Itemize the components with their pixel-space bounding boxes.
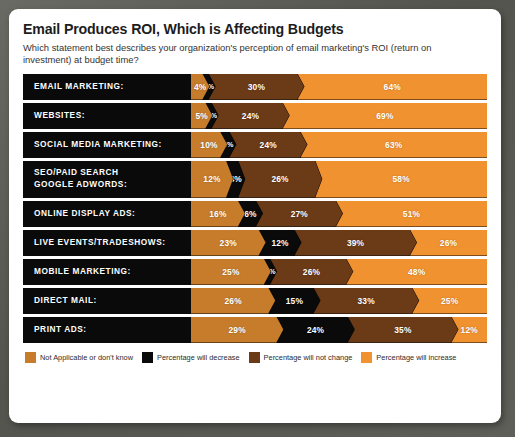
chart-row: LIVE EVENTS/TRADESHOWS:23%12%39%26%	[23, 230, 487, 256]
chart-segment: 35%	[348, 317, 458, 343]
legend-item[interactable]: Percentage will not change	[249, 352, 353, 363]
chart-segment: 33%	[314, 288, 419, 314]
chart-row-label: PRINT ADS:	[34, 317, 87, 343]
chart-segment-value: 25%	[441, 296, 458, 306]
chart-segment: 48%	[346, 259, 487, 285]
chart-row-label: EMAIL MARKETING:	[34, 74, 124, 100]
chart-segment-value: 10%	[200, 140, 217, 150]
chart-segment: 30%	[209, 74, 304, 100]
chart-segment-value: 25%	[222, 267, 239, 277]
chart-segment-value: 39%	[347, 238, 364, 248]
chart-segment: 69%	[283, 103, 487, 129]
chart-segment: 10%	[191, 132, 227, 158]
chart-segment-value: 24%	[242, 111, 259, 121]
chart-segment-value: 29%	[228, 325, 245, 335]
legend-label: Percentage will increase	[376, 353, 456, 362]
chart-segment: 58%	[315, 161, 487, 198]
chart-segment-value: 58%	[392, 174, 409, 184]
chart-segment-value: 33%	[357, 296, 374, 306]
chart-row-segments: 12%4%26%58%	[191, 161, 487, 198]
chart-segment: 51%	[336, 201, 487, 227]
page-subtitle: Which statement best describes your orga…	[23, 42, 453, 67]
chart-segment-value: 5%	[195, 111, 208, 121]
chart-segment: 12%	[191, 161, 233, 198]
chart-row-segments: 5%2%24%69%	[191, 103, 487, 129]
chart-segment-value: 26%	[271, 174, 288, 184]
chart-segment-value: 4%	[194, 82, 207, 92]
chart-segment-value: 48%	[408, 267, 425, 277]
legend-swatch-icon	[249, 352, 260, 363]
chart-segment: 25%	[191, 259, 271, 285]
legend-label: Percentage will not change	[264, 353, 353, 362]
chart-row-label: SEO/PAID SEARCH GOOGLE ADWORDS:	[34, 161, 127, 198]
legend-swatch-icon	[361, 352, 372, 363]
chart-row-segments: 26%15%33%25%	[191, 288, 487, 314]
chart-segment-value: 6%	[244, 209, 257, 219]
chart-row-segments: 23%12%39%26%	[191, 230, 487, 256]
chart-segment: 39%	[295, 230, 417, 256]
chart-row-label: WEBSITES:	[34, 103, 85, 129]
chart-segment-value: 35%	[394, 325, 411, 335]
chart-segment-value: 26%	[440, 238, 457, 248]
legend-item[interactable]: Percentage will decrease	[142, 352, 240, 363]
stacked-bar-chart: EMAIL MARKETING:4%2%30%64%WEBSITES:5%2%2…	[23, 74, 487, 343]
chart-segment: 26%	[410, 230, 487, 256]
chart-row-segments: 16%6%27%51%	[191, 201, 487, 227]
chart-row-segments: 25%2%26%48%	[191, 259, 487, 285]
legend-swatch-icon	[25, 352, 36, 363]
chart-row-label: SOCIAL MEDIA MARKETING:	[34, 132, 162, 158]
chart-segment: 24%	[212, 103, 290, 129]
chart-row-segments: 10%3%24%63%	[191, 132, 487, 158]
chart-card: Email Produces ROI, Which is Affecting B…	[9, 9, 501, 423]
chart-segment-value: 64%	[384, 82, 401, 92]
chart-row-label: ONLINE DISPLAY ADS:	[34, 201, 135, 227]
chart-segment-value: 26%	[303, 267, 320, 277]
legend-swatch-icon	[142, 352, 153, 363]
chart-segment-value: 12%	[461, 325, 478, 335]
legend-label: Not Applicable or don't know	[40, 353, 133, 362]
chart-segment: 26%	[270, 259, 353, 285]
page-title: Email Produces ROI, Which is Affecting B…	[23, 21, 487, 39]
chart-row: WEBSITES:5%2%24%69%	[23, 103, 487, 129]
legend-label: Percentage will decrease	[157, 353, 240, 362]
chart-segment: 64%	[298, 74, 487, 100]
chart-row-label: DIRECT MAIL:	[34, 288, 97, 314]
chart-row-segments: 29%24%35%12%	[191, 317, 487, 343]
legend-item[interactable]: Percentage will increase	[361, 352, 456, 363]
chart-row-segments: 4%2%30%64%	[191, 74, 487, 100]
chart-segment: 24%	[229, 132, 307, 158]
chart-segment-value: 26%	[224, 296, 241, 306]
chart-segment-value: 27%	[291, 209, 308, 219]
chart-segment-value: 12%	[203, 174, 220, 184]
chart-legend: Not Applicable or don't knowPercentage w…	[23, 352, 487, 363]
chart-segment-value: 16%	[209, 209, 226, 219]
chart-segment: 24%	[277, 317, 355, 343]
chart-row-label: LIVE EVENTS/TRADESHOWS:	[34, 230, 166, 256]
chart-segment-value: 51%	[403, 209, 420, 219]
chart-row: SOCIAL MEDIA MARKETING:10%3%24%63%	[23, 132, 487, 158]
chart-row-label: MOBILE MARKETING:	[34, 259, 131, 285]
chart-segment-value: 23%	[220, 238, 237, 248]
chart-segment: 23%	[191, 230, 266, 256]
chart-row: EMAIL MARKETING:4%2%30%64%	[23, 74, 487, 100]
chart-row: MOBILE MARKETING:25%2%26%48%	[23, 259, 487, 285]
chart-segment-value: 69%	[376, 111, 393, 121]
chart-segment-value: 12%	[271, 238, 288, 248]
chart-row: ONLINE DISPLAY ADS:16%6%27%51%	[23, 201, 487, 227]
chart-segment: 16%	[191, 201, 245, 227]
chart-segment: 26%	[238, 161, 321, 198]
chart-segment: 26%	[191, 288, 275, 314]
chart-segment-value: 24%	[307, 325, 324, 335]
chart-segment-value: 63%	[385, 140, 402, 150]
chart-row: DIRECT MAIL:26%15%33%25%	[23, 288, 487, 314]
chart-segment-value: 15%	[286, 296, 303, 306]
chart-segment: 27%	[256, 201, 342, 227]
chart-segment: 29%	[191, 317, 283, 343]
poster-frame: Email Produces ROI, Which is Affecting B…	[0, 0, 515, 437]
chart-segment-value: 30%	[248, 82, 265, 92]
chart-segment: 63%	[301, 132, 487, 158]
chart-segment: 15%	[269, 288, 320, 314]
legend-item[interactable]: Not Applicable or don't know	[25, 352, 133, 363]
chart-segment-value: 24%	[260, 140, 277, 150]
chart-row: SEO/PAID SEARCH GOOGLE ADWORDS:12%4%26%5…	[23, 161, 487, 198]
